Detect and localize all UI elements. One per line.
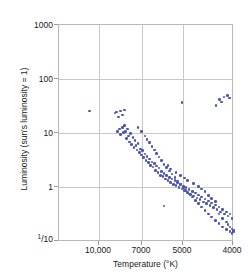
data-point: [229, 213, 232, 216]
data-point: [163, 163, 166, 166]
data-point: [144, 135, 147, 138]
data-point: [205, 202, 208, 205]
data-point: [204, 209, 207, 212]
gridline-y-100: [59, 79, 232, 80]
x-tick-label-4000: 4000: [223, 246, 242, 255]
hr-diagram-figure: 1000 100 10 1 1/10: [0, 0, 250, 279]
data-point: [123, 124, 126, 127]
data-point: [115, 111, 118, 114]
data-point: [141, 149, 144, 152]
data-point: [197, 194, 200, 197]
data-point: [137, 142, 140, 145]
data-point: [140, 130, 143, 133]
data-point: [216, 208, 219, 211]
data-point: [134, 139, 137, 142]
data-point: [210, 197, 213, 200]
data-point: [232, 230, 235, 233]
data-point: [88, 110, 91, 113]
x-tick-label-5000: 5000: [173, 246, 192, 255]
data-point: [155, 152, 158, 155]
gridline-y-1: [59, 187, 232, 188]
data-point: [151, 145, 154, 148]
data-point: [181, 101, 184, 104]
data-point: [231, 217, 234, 220]
data-point: [165, 166, 168, 169]
data-point: [227, 215, 230, 218]
data-point: [218, 213, 221, 216]
data-point: [148, 158, 151, 161]
data-point: [123, 109, 126, 112]
data-point: [152, 166, 155, 169]
data-point: [129, 132, 132, 135]
data-point: [148, 141, 151, 144]
data-point: [158, 167, 161, 170]
gridline-y-10: [59, 133, 232, 134]
data-point: [204, 190, 207, 193]
data-point: [207, 200, 210, 203]
data-point: [209, 204, 212, 207]
gridline-x-5000: [183, 25, 184, 240]
data-point: [204, 198, 207, 201]
data-point: [117, 116, 120, 119]
data-point: [191, 196, 194, 199]
data-point: [225, 228, 228, 231]
data-point: [163, 205, 166, 208]
data-point: [153, 149, 156, 152]
data-point: [223, 96, 226, 99]
data-point: [182, 186, 185, 189]
data-point: [207, 194, 210, 197]
data-point: [175, 171, 178, 174]
x-tick-label-7000: 7000: [132, 246, 151, 255]
data-point: [214, 219, 217, 222]
data-point: [202, 201, 205, 204]
data-point: [210, 216, 213, 219]
data-point: [200, 196, 203, 199]
data-point: [160, 159, 163, 162]
data-point: [179, 174, 182, 177]
data-point: [212, 206, 215, 209]
data-point: [174, 176, 177, 179]
data-point: [199, 198, 202, 201]
gridline-x-10000: [99, 25, 100, 240]
data-point: [146, 138, 149, 141]
data-point: [214, 200, 217, 203]
data-point: [119, 133, 122, 136]
data-point: [200, 188, 203, 191]
data-point: [197, 185, 200, 188]
data-point: [221, 226, 224, 229]
data-point: [176, 180, 179, 183]
x-tick-label-10000: 10,000: [85, 246, 111, 255]
data-point: [125, 137, 128, 140]
data-point: [116, 130, 119, 133]
plot-area: [58, 24, 233, 241]
data-point: [167, 164, 170, 167]
data-point: [218, 206, 221, 209]
data-point: [137, 126, 140, 129]
data-point: [214, 204, 217, 207]
data-point: [207, 213, 210, 216]
data-point: [221, 208, 224, 211]
y-axis-title: Luminosity (sun's luminosity = 1): [19, 19, 29, 239]
x-axis-title: Temperature (°K): [58, 259, 233, 269]
data-point: [225, 211, 228, 214]
data-point: [220, 101, 223, 104]
data-point: [186, 179, 189, 182]
data-point: [119, 110, 122, 113]
data-point: [158, 156, 161, 159]
data-point: [218, 222, 221, 225]
data-point: [171, 173, 174, 176]
data-point: [171, 178, 174, 181]
data-point: [192, 182, 195, 185]
data-point: [221, 217, 224, 220]
data-point: [127, 135, 130, 138]
data-point: [178, 186, 181, 189]
data-point: [197, 202, 200, 205]
data-point: [194, 199, 197, 202]
data-point: [215, 104, 218, 107]
data-point: [124, 130, 127, 133]
data-point: [228, 97, 231, 100]
data-point: [200, 206, 203, 209]
data-point: [121, 114, 124, 117]
